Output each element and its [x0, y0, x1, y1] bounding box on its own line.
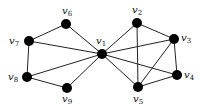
edge-v3-v4: [174, 39, 177, 75]
node-v1: [97, 49, 107, 59]
edge-v7-v8: [27, 41, 29, 77]
node-v4: [172, 70, 182, 80]
label-v3: v3: [181, 33, 191, 45]
edge-v1-v7: [29, 41, 102, 54]
edge-v8-v9: [27, 77, 67, 88]
node-v6: [61, 19, 71, 29]
label-v4: v4: [184, 70, 194, 82]
node-v9: [62, 83, 72, 93]
edge-v2-v5: [137, 23, 138, 87]
label-v9: v9: [62, 94, 72, 106]
label-v2: v2: [132, 5, 142, 17]
label-v7: v7: [9, 36, 19, 48]
node-v7: [24, 36, 34, 46]
edge-v3-v5: [138, 39, 174, 87]
edge-v2-v3: [137, 23, 174, 39]
edge-v1-v2: [102, 23, 137, 54]
edge-v4-v5: [138, 75, 177, 87]
label-v1: v1: [96, 36, 106, 48]
node-v8: [22, 72, 32, 82]
node-v5: [133, 82, 143, 92]
graph-diagram: v1v2v3v4v5v6v7v8v9: [0, 0, 201, 108]
node-v2: [132, 18, 142, 28]
graph-svg: [0, 0, 201, 108]
edge-v6-v7: [29, 24, 66, 41]
label-v8: v8: [8, 72, 18, 84]
label-v5: v5: [133, 94, 143, 106]
node-v3: [169, 34, 179, 44]
label-v6: v6: [62, 6, 72, 18]
edge-v1-v3: [102, 39, 174, 54]
